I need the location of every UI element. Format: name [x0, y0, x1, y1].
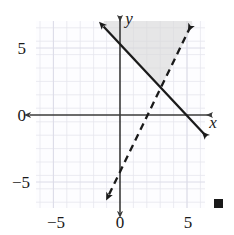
x-tick-5: 5	[184, 213, 193, 232]
coordinate-plane-figure: x y 5 0 −5 −5 0 5	[0, 0, 234, 235]
graph-svg: x y 5 0 −5 −5 0 5	[0, 0, 234, 235]
corner-marker-square	[214, 199, 223, 208]
y-axis-label: y	[123, 9, 133, 28]
x-tick-0: 0	[116, 213, 125, 232]
y-tick-5: 5	[18, 39, 27, 58]
x-tick-neg5: −5	[47, 213, 65, 232]
y-tick-0: 0	[18, 106, 27, 125]
y-tick-neg5: −5	[12, 173, 30, 192]
x-axis-label: x	[208, 113, 217, 132]
